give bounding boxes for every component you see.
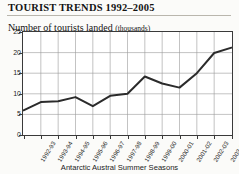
x-tick-label: 1992-93: [38, 140, 56, 163]
y-tick-mark: [19, 114, 23, 115]
y-tick-mark: [19, 53, 23, 54]
x-tick-mark: [232, 136, 233, 139]
x-tick-mark: [162, 136, 163, 139]
x-tick-mark: [197, 136, 198, 139]
x-tick-label: 2002-03: [212, 140, 230, 163]
x-tick-label: 2000-01: [177, 140, 195, 163]
x-tick-label: 1996-97: [108, 140, 126, 163]
line-chart-svg: [23, 32, 232, 135]
x-tick-label: 1999-00: [160, 140, 178, 163]
x-tick-mark: [180, 136, 181, 139]
x-tick-label: 1993-94: [56, 140, 74, 163]
figure-title: TOURIST TRENDS 1992–2005: [8, 2, 155, 13]
x-tick-mark: [145, 136, 146, 139]
title-divider: [7, 15, 231, 16]
x-tick-label: 1995-96: [90, 140, 108, 163]
gridlines: [23, 32, 232, 135]
x-tick-label: 2003-04: [229, 140, 239, 163]
x-tick-label: 2001-02: [194, 140, 212, 163]
y-axis: 0510152025: [0, 0, 21, 174]
x-tick-mark: [128, 136, 129, 139]
y-tick-mark: [19, 135, 23, 136]
x-tick-mark: [214, 136, 215, 139]
x-tick-mark: [24, 136, 25, 139]
plot-area: [22, 31, 233, 136]
x-tick-mark: [110, 136, 111, 139]
x-tick-label: 1997-98: [125, 140, 143, 163]
chart-figure: TOURIST TRENDS 1992–2005 Number of touri…: [0, 0, 239, 174]
y-tick-mark: [19, 32, 23, 33]
x-tick-label: 1998-99: [142, 140, 160, 163]
x-axis-caption: Antarctic Austral Summer Seasons: [0, 163, 239, 172]
x-tick-mark: [41, 136, 42, 139]
x-tick-mark: [93, 136, 94, 139]
x-tick-label: 1994-95: [73, 140, 91, 163]
x-tick-mark: [58, 136, 59, 139]
x-tick-mark: [76, 136, 77, 139]
y-tick-mark: [19, 94, 23, 95]
y-tick-mark: [19, 73, 23, 74]
